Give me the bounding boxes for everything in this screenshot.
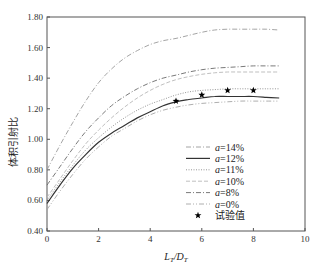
y-tick-label: 1.60 [27, 43, 43, 53]
y-tick-label: 0.40 [27, 226, 43, 236]
y-tick-label: 1.80 [27, 12, 43, 22]
x-tick-label: 6 [200, 234, 205, 244]
x-tick-label: 4 [148, 234, 153, 244]
x-axis-label: LT/DT [163, 251, 188, 264]
x-tick-label: 8 [251, 234, 256, 244]
legend-label: a=11% [215, 164, 244, 175]
line-chart: 0.400.600.801.001.201.401.601.80 0246810… [0, 0, 317, 269]
x-tick-label: 2 [96, 234, 101, 244]
y-tick-label: 0.80 [27, 165, 43, 175]
plot-frame [47, 17, 305, 231]
legend-label: a=12% [215, 153, 244, 164]
y-tick-label: 1.40 [27, 73, 43, 83]
y-axis-label: 体积引射比 [8, 117, 19, 167]
x-tick-label: 10 [301, 234, 311, 244]
x-tick-label: 0 [45, 234, 50, 244]
y-tick-label: 1.20 [27, 104, 43, 114]
legend-label: 试验值 [215, 209, 245, 221]
legend-label: a=10% [215, 176, 244, 187]
legend-label: a=0% [215, 199, 239, 210]
y-tick-label: 1.00 [27, 134, 43, 144]
legend-label: a=8% [215, 187, 239, 198]
y-tick-label: 0.60 [27, 195, 43, 205]
legend-label: a=14% [215, 142, 244, 153]
